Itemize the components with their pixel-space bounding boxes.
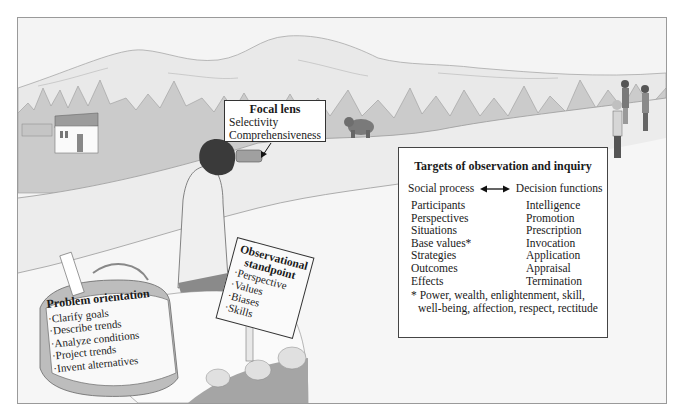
- list-item: Prescription: [526, 224, 582, 237]
- list-item: Appraisal: [526, 262, 582, 275]
- list-item: Participants: [411, 199, 471, 212]
- decision-functions-list: Intelligence Promotion Prescription Invo…: [526, 199, 582, 287]
- social-process-list: Participants Perspectives Situations Bas…: [411, 199, 471, 287]
- footnote-line: * Power, wealth, enlightenment, skill,: [411, 289, 607, 302]
- list-item: Outcomes: [411, 262, 471, 275]
- decision-functions-heading: Decision functions: [516, 182, 603, 194]
- targets-of-observation-box: Targets of observation and inquiry Socia…: [398, 147, 608, 338]
- double-headed-arrow-icon: [480, 184, 510, 194]
- problem-orientation-label: Problem orientation ·Clarify goals ·Desc…: [46, 287, 161, 375]
- list-item: Application: [526, 249, 582, 262]
- list-item: Effects: [411, 275, 471, 288]
- list-item: Base values*: [411, 237, 471, 250]
- list-item: Intelligence: [526, 199, 582, 212]
- focal-lens-item: Selectivity: [229, 116, 321, 129]
- focal-lens-box: Focal lens Selectivity Comprehensiveness: [224, 100, 326, 142]
- list-item: Situations: [411, 224, 471, 237]
- focal-lens-item: Comprehensiveness: [229, 129, 321, 142]
- list-item: Strategies: [411, 249, 471, 262]
- list-item: Promotion: [526, 212, 582, 225]
- footnote-line: well-being, affection, respect, rectitud…: [411, 302, 607, 315]
- list-item: Perspectives: [411, 212, 471, 225]
- focal-lens-title: Focal lens: [229, 103, 321, 116]
- targets-headings: Social process Decision functions: [408, 182, 608, 195]
- targets-title: Targets of observation and inquiry: [399, 160, 607, 173]
- social-process-heading: Social process: [408, 182, 474, 194]
- sign-post: [246, 323, 253, 361]
- list-item: Termination: [526, 275, 582, 288]
- list-item: Invocation: [526, 237, 582, 250]
- base-values-footnote: * Power, wealth, enlightenment, skill, w…: [411, 289, 607, 315]
